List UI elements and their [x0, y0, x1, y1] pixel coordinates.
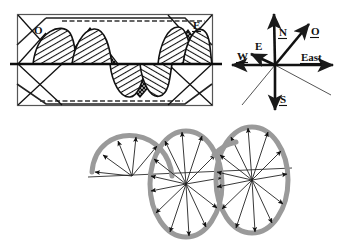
figure-root: O E N S W East [0, 0, 345, 248]
compass-label-north: N [278, 26, 287, 39]
compass-label-west: W [236, 50, 248, 63]
compass-label-south: S [279, 93, 287, 106]
svg-text:O: O [311, 25, 320, 37]
label-origin: O [34, 24, 43, 36]
arrow-north [274, 14, 275, 65]
label-end-group: E [192, 19, 201, 32]
label-end: E [193, 19, 200, 31]
figure-canvas: O E N S W East [0, 0, 345, 248]
compass-label-e-axis: E [255, 40, 262, 52]
compass-label-o-axis: O [310, 25, 320, 38]
svg-text:N: N [279, 26, 287, 38]
svg-text:W: W [237, 50, 248, 62]
svg-text:East: East [301, 51, 322, 63]
compass-label-east: East [300, 51, 322, 64]
svg-text:S: S [280, 93, 286, 105]
